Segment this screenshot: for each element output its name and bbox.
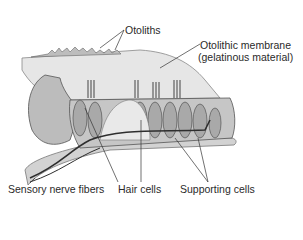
label-otoliths: Otoliths [125,25,161,36]
label-gelatinous-material: (gelatinous material) [198,52,293,63]
label-hair-cells: Hair cells [118,184,161,195]
label-supporting-cells: Supporting cells [180,184,255,195]
label-sensory-nerve-fibers: Sensory nerve fibers [8,184,104,195]
label-otolithic-membrane: Otolithic membrane [200,40,291,51]
